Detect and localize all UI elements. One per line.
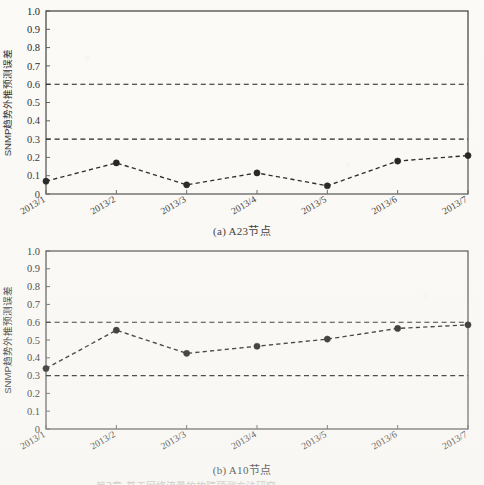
data-point-marker xyxy=(254,170,260,176)
data-point-marker xyxy=(465,322,471,328)
x-tick-label: 2013/7 xyxy=(440,193,469,216)
data-point-marker xyxy=(324,183,330,189)
y-tick-label: 1.0 xyxy=(27,6,40,17)
chart-panel-b: 1.00.90.80.70.60.50.40.30.20.102013/1201… xyxy=(0,243,484,485)
y-tick-label: 0.7 xyxy=(27,61,40,72)
y-tick-label: 0.9 xyxy=(27,263,40,274)
y-tick-label: 0.8 xyxy=(27,281,40,292)
y-tick-label: 0.1 xyxy=(27,406,40,417)
chart-panel-a: 1.00.90.80.70.60.50.40.30.20.102013/1201… xyxy=(0,0,484,243)
data-point-marker xyxy=(184,182,190,188)
x-tick-label: 2013/7 xyxy=(440,428,469,451)
data-point-marker xyxy=(395,325,401,331)
y-axis-title: SNMP趋势外推预测误差 xyxy=(2,286,13,394)
y-tick-label: 0.6 xyxy=(27,79,40,90)
x-tick-label: 2013/6 xyxy=(370,428,399,451)
data-point-marker xyxy=(254,343,260,349)
x-tick-label: 2013/3 xyxy=(159,193,188,216)
chart-b-canvas: 1.00.90.80.70.60.50.40.30.20.102013/1201… xyxy=(0,243,484,485)
caption-panel-a: (a) A23节点 xyxy=(0,222,484,238)
page-bleed-text: 第3章 基于网络流量的故障预测方法研究 xyxy=(96,478,396,485)
x-tick-label: 2013/5 xyxy=(299,193,328,216)
x-tick-label: 2013/1 xyxy=(18,193,47,216)
y-tick-label: 0.6 xyxy=(27,317,40,328)
y-tick-label: 0.2 xyxy=(27,388,40,399)
x-tick-label: 2013/1 xyxy=(18,428,47,451)
x-tick-label: 2013/2 xyxy=(88,428,117,451)
y-tick-label: 0.4 xyxy=(27,115,41,126)
y-tick-label: 0.3 xyxy=(27,370,40,381)
y-tick-label: 0.5 xyxy=(27,97,40,108)
data-point-marker xyxy=(184,350,190,356)
data-point-marker xyxy=(113,327,119,333)
chart-a-canvas: 1.00.90.80.70.60.50.40.30.20.102013/1201… xyxy=(0,0,484,243)
data-point-marker xyxy=(43,365,49,371)
x-tick-label: 2013/4 xyxy=(229,428,258,451)
data-point-marker xyxy=(324,336,330,342)
y-tick-label: 0.1 xyxy=(27,170,40,181)
y-axis-title: SNMP趋势外推预测误差 xyxy=(2,49,13,157)
plot-frame xyxy=(46,11,468,194)
x-tick-label: 2013/4 xyxy=(229,193,258,216)
data-point-marker xyxy=(113,160,119,166)
x-tick-label: 2013/5 xyxy=(299,428,328,451)
y-tick-label: 0.2 xyxy=(27,152,40,163)
caption-a-text: (a) A23节点 xyxy=(213,225,271,237)
data-point-marker xyxy=(43,178,49,184)
x-tick-label: 2013/3 xyxy=(159,428,188,451)
data-point-marker xyxy=(465,152,471,158)
y-tick-label: 0.3 xyxy=(27,134,40,145)
x-tick-label: 2013/6 xyxy=(370,193,399,216)
y-tick-label: 0.7 xyxy=(27,299,40,310)
y-tick-label: 0.9 xyxy=(27,24,40,35)
caption-b-text: (b) A10节点 xyxy=(213,464,272,476)
x-tick-label: 2013/2 xyxy=(88,193,117,216)
data-point-marker xyxy=(395,158,401,164)
y-tick-label: 0.4 xyxy=(27,352,41,363)
y-tick-label: 0.5 xyxy=(27,335,40,346)
plot-frame xyxy=(46,251,468,429)
caption-panel-b: (b) A10节点 xyxy=(0,461,484,477)
figure-container: 1.00.90.80.70.60.50.40.30.20.102013/1201… xyxy=(0,0,484,485)
y-tick-label: 1.0 xyxy=(27,246,40,257)
y-tick-label: 0.8 xyxy=(27,42,40,53)
